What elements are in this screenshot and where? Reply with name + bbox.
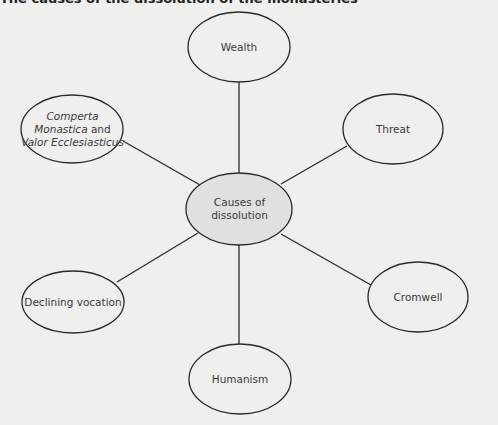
comperta-line2: Monastica and — [34, 123, 110, 136]
comperta-line2-plain: and — [88, 123, 111, 135]
comperta-line1: Comperta — [47, 110, 99, 123]
node-humanism-label: Humanism — [189, 344, 291, 414]
wealth-text: Wealth — [221, 41, 257, 54]
node-center-label: Causes of dissolution — [186, 173, 293, 245]
comperta-line3: Valor Ecclesiasticus — [21, 136, 124, 149]
node-cromwell-label: Cromwell — [368, 262, 468, 332]
humanism-text: Humanism — [212, 373, 268, 386]
comperta-line2-italic: Monastica — [34, 123, 87, 135]
center-line1: Causes of — [214, 196, 265, 209]
node-declining-label: Declining vocation — [22, 271, 124, 333]
node-threat-label: Threat — [343, 94, 443, 164]
cromwell-text: Cromwell — [394, 291, 443, 304]
node-wealth-label: Wealth — [188, 12, 290, 82]
node-comperta-label: Comperta Monastica and Valor Ecclesiasti… — [21, 95, 124, 163]
threat-text: Threat — [376, 123, 410, 136]
connector-cromwell — [281, 234, 371, 285]
declining-text: Declining vocation — [24, 296, 121, 309]
center-line2: dissolution — [211, 209, 268, 222]
